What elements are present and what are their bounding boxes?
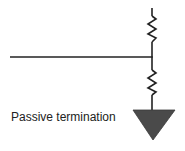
pull-up-resistor-icon	[148, 16, 156, 42]
termination-schematic	[0, 0, 185, 151]
pull-down-resistor-icon	[148, 70, 156, 95]
diagram-label: Passive termination	[11, 110, 116, 124]
ground-triangle-icon	[133, 110, 175, 140]
